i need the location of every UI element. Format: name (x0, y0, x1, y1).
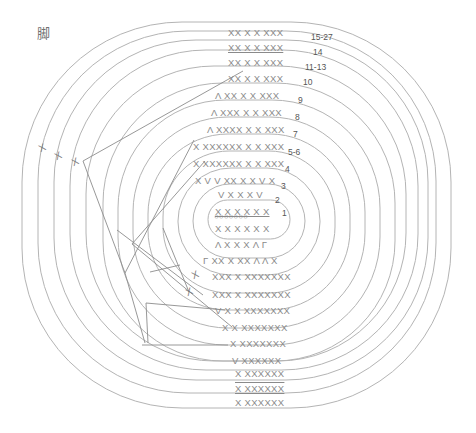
row-number: 10 (303, 78, 312, 87)
row-stitches: XX X X XXX (228, 43, 283, 53)
row-stitches: X XXXXXX (235, 369, 284, 379)
row-stitches: V X X X V (218, 190, 263, 200)
row-stitches: XXX X XXXXXXX (212, 290, 291, 300)
row-stitches: X X XXXXXXX (222, 323, 288, 333)
row-number: 11-13 (305, 63, 326, 72)
row-stitches: X XXXXXXX (230, 339, 286, 349)
row-stitches: X V V XX X X V X (195, 176, 275, 186)
row-stitches: XX X X XXX (228, 28, 283, 38)
row-stitches: V X X XXXXXXX (215, 306, 290, 316)
row-stitches: X XXXXXX (235, 384, 284, 394)
row-stitches: Λ XX X X XXX (215, 91, 279, 101)
row-number: 7 (293, 130, 298, 139)
row-stitches: Λ XXXX X X XXX (207, 125, 285, 135)
row-number: 9 (298, 96, 303, 105)
row-stitches: X XXXXXX X X XXX (193, 142, 284, 152)
foundation-chain: ○○○○○○○ (214, 213, 248, 221)
row-stitches: XX X X XXX (228, 58, 283, 68)
row-number: 3 (281, 182, 286, 191)
row-stitches: X XXXXXX X X XXX (193, 159, 284, 169)
row-number: 15-27 (311, 33, 333, 42)
row-stitches: X XXXXXX (235, 398, 284, 408)
row-number: 1 (282, 209, 287, 218)
row-number: 4 (285, 165, 290, 174)
row-number: 8 (295, 113, 300, 122)
crochet-chart: 脚 XX X X XXX 15-27 XX X X XXX 14 XX X X … (0, 0, 476, 433)
row-stitches: XXX X XXXXXXX (212, 272, 291, 282)
row-number: 5-6 (288, 148, 300, 157)
row-stitches: Λ X X X Λ Γ (215, 240, 267, 250)
row-stitches: XX X X XXX (228, 74, 283, 84)
title-glyph: 脚 (37, 27, 50, 40)
row-number: 2 (275, 196, 280, 205)
row-number: 14 (313, 48, 322, 57)
row-stitches: Λ XXX X X XXX (211, 108, 282, 118)
row-stitches: X X X X X X (215, 224, 270, 234)
row-stitches: V XXXXXX (232, 356, 281, 366)
row-stitches: Γ XX X XX Λ Λ X (203, 256, 278, 266)
